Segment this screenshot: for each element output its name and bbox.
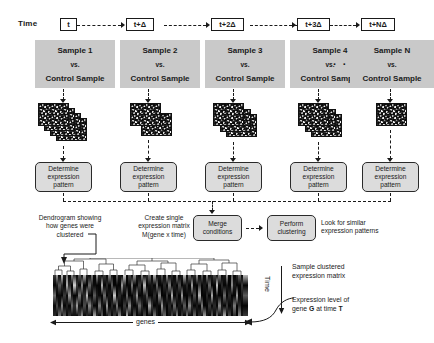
time-connector-3 <box>250 25 292 26</box>
connector-array2-determine <box>148 140 149 159</box>
microarray-stack-4[interactable] <box>298 103 353 143</box>
determine-box-4[interactable]: Determine expression pattern <box>290 162 347 192</box>
bus-drop-3 <box>233 193 234 201</box>
microarray-chip <box>38 103 69 126</box>
microarray-chip <box>130 103 161 126</box>
determine-line-1: Determine <box>133 165 163 173</box>
bus-drop-1 <box>63 193 64 201</box>
sample-box-1[interactable]: Sample 1 vs. Control Sample <box>35 40 115 88</box>
microarray-chip <box>213 103 244 126</box>
timepoint-box-t2[interactable]: t+2Δ <box>211 18 244 31</box>
merge-to-cluster-connector <box>246 228 259 229</box>
determine-line-2: expression <box>48 173 80 181</box>
expression-heatmap[interactable] <box>53 275 248 316</box>
determine-line-2: expression <box>303 173 335 181</box>
sample-box-2[interactable]: Sample 2 vs. Control Sample <box>120 40 200 88</box>
create-matrix-note: Create single expression matrix M(gene x… <box>126 214 202 239</box>
timepoint-label-t1: t+Δ <box>134 21 146 29</box>
bus-drop-2 <box>148 193 149 201</box>
dendrogram-note-line-1: Dendrogram showing <box>20 214 120 222</box>
perform-clustering-box[interactable]: Perform clustering <box>267 215 316 241</box>
callout-line-1: Expression level of <box>292 296 414 305</box>
sample-vs-n: vs. <box>387 61 396 68</box>
sample-title-n: Sample N <box>374 46 410 55</box>
time-arrowhead-1 <box>121 22 125 28</box>
determine-line-2: expression <box>375 173 407 181</box>
arrowhead-bus-to-merge <box>209 210 215 214</box>
connector-array4-determine <box>318 142 319 159</box>
microarray-stack-2[interactable] <box>130 103 180 143</box>
merge-line-2: conditions <box>203 228 233 236</box>
look-note-line-1: Look for similar <box>321 219 419 227</box>
merge-to-cluster-arrowhead <box>259 225 263 231</box>
time-arrowhead-2 <box>206 22 210 28</box>
determine-box-1[interactable]: Determine expression pattern <box>35 162 92 192</box>
timepoint-box-t1[interactable]: t+Δ <box>126 18 154 31</box>
look-note-line-2: expression patterns <box>321 227 419 235</box>
time-connector-5 <box>330 25 356 26</box>
create-matrix-line-3: M(gene x time) <box>126 231 202 239</box>
sample-vs-2: vs. <box>155 61 164 68</box>
expression-cell-callout-arrow <box>236 296 298 326</box>
matrix-title-note: Sample clustered expression matrix <box>292 263 412 280</box>
microarray-chip <box>298 103 329 126</box>
merge-line-1: Merge <box>208 220 227 228</box>
determine-line-3: pattern <box>308 181 329 189</box>
sample-control-1: Control Sample <box>45 74 104 83</box>
determine-line-1: Determine <box>375 165 405 173</box>
sample-vs-3: vs. <box>240 61 249 68</box>
microarray-stack-1[interactable] <box>38 103 98 143</box>
sample-title-3: Sample 3 <box>227 46 262 55</box>
connector-array3-determine <box>233 142 234 159</box>
determine-box-n[interactable]: Determine expression pattern <box>362 162 419 192</box>
microarray-stack-n[interactable] <box>376 103 408 127</box>
timepoint-box-t0[interactable]: t <box>60 18 77 31</box>
determine-box-2[interactable]: Determine expression pattern <box>120 162 177 192</box>
determine-line-1: Determine <box>218 165 248 173</box>
determine-line-3: pattern <box>223 181 244 189</box>
matrix-title-line-2: expression matrix <box>292 272 412 281</box>
sample-box-n[interactable]: Sample N vs. Control Sample <box>350 40 434 88</box>
timepoint-label-t3: t+3Δ <box>305 21 321 29</box>
create-matrix-line-2: expression matrix <box>126 222 202 230</box>
expression-cell-callout: Expression level of gene G at time T <box>292 296 414 313</box>
genes-axis-label: genes <box>133 318 158 325</box>
merge-conditions-box[interactable]: Merge conditions <box>193 215 242 241</box>
determine-line-3: pattern <box>138 181 159 189</box>
determine-line-2: expression <box>218 173 250 181</box>
determine-line-2: expression <box>133 173 165 181</box>
sample-title-1: Sample 1 <box>57 46 92 55</box>
callout-line-2: gene G at time T <box>292 305 414 314</box>
microarray-stack-3[interactable] <box>213 103 268 143</box>
timepoint-label-t2: t+2Δ <box>219 21 235 29</box>
create-matrix-line-1: Create single <box>126 214 202 222</box>
sample-title-4: Sample 4 <box>312 46 347 55</box>
time-connector-2 <box>164 25 206 26</box>
callout-prefix: gene <box>292 305 309 312</box>
sample-box-3[interactable]: Sample 3 vs. Control Sample <box>205 40 285 88</box>
gene-dendrogram <box>53 258 248 275</box>
determine-line-3: pattern <box>53 181 74 189</box>
determine-box-3[interactable]: Determine expression pattern <box>205 162 262 192</box>
sample-control-n: Control Sample <box>362 74 421 83</box>
callout-time-symbol: T <box>339 305 343 312</box>
timepoint-box-t3[interactable]: t+3Δ <box>297 18 330 31</box>
time-connector-1 <box>77 25 121 26</box>
bus-drop-4 <box>318 193 319 201</box>
timepoint-box-tn[interactable]: t+NΔ <box>361 18 395 31</box>
microarray-chip <box>376 103 407 126</box>
timepoint-label-t0: t <box>67 21 70 29</box>
timepoint-label-tn: t+NΔ <box>369 21 387 29</box>
connector-arrayn-determine <box>390 130 391 159</box>
time-axis-vertical-label: Time <box>264 276 271 292</box>
dendrogram-note-line-2: how genes were <box>20 222 120 230</box>
cluster-line-2: clustering <box>277 228 305 236</box>
matrix-title-line-1: Sample clustered <box>292 263 412 272</box>
sample-control-2: Control Sample <box>130 74 189 83</box>
determine-line-3: pattern <box>380 181 401 189</box>
time-arrowhead-4 <box>356 22 360 28</box>
determine-line-1: Determine <box>48 165 78 173</box>
cluster-line-1: Perform <box>280 220 303 228</box>
callout-middle: at time <box>314 305 338 312</box>
